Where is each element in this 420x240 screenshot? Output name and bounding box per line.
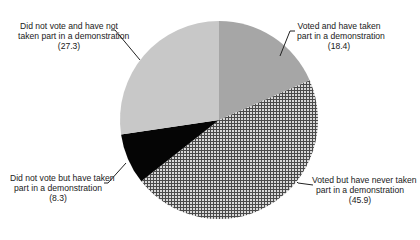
label-value: (27.3) xyxy=(18,41,120,51)
label-line: Did not vote but have taken xyxy=(10,173,106,183)
label-line: part in a demonstration xyxy=(297,31,381,41)
label-value: (45.9) xyxy=(312,195,408,205)
label-voted-nodemo: Voted but have never taken part in a dem… xyxy=(312,175,408,205)
leader-line-voted-nodemo-main xyxy=(297,182,313,185)
label-line: part in a demonstration xyxy=(10,183,106,193)
label-line: Did not vote and have not xyxy=(18,21,120,31)
label-line: taken part in a demonstration xyxy=(18,31,120,41)
pie-slice xyxy=(120,21,219,134)
label-value: (18.4) xyxy=(297,41,381,51)
label-novote-nodemo: Did not vote and have not taken part in … xyxy=(18,21,120,51)
label-line: part in a demonstration xyxy=(312,185,408,195)
label-line: Voted but have never taken xyxy=(312,175,408,185)
pie-slices xyxy=(120,21,318,219)
label-value: (8.3) xyxy=(10,193,106,203)
label-voted-demo: Voted and have taken part in a demonstra… xyxy=(297,21,381,51)
label-line: Voted and have taken xyxy=(297,21,381,31)
label-novote-demo: Did not vote but have taken part in a de… xyxy=(10,173,106,203)
